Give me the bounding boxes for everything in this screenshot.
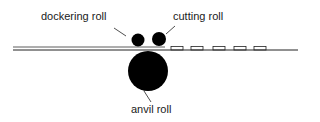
anvil-roll-shape [128,51,168,91]
anvil-roll-label: anvil roll [131,104,171,115]
cut-piece [171,47,183,51]
cut-piece [213,47,225,51]
cutting-roll-shape [152,32,166,46]
dockering-roll-label: dockering roll [41,11,106,22]
cutting-roll-label: cutting roll [173,11,223,22]
cut-pieces [171,47,266,51]
dockering-roll-leader [114,28,126,36]
cut-piece [254,47,266,51]
dockering-roll-shape [132,34,145,47]
cut-piece [234,47,246,51]
anvil-roll-leader [144,91,151,102]
cutting-roll-leader [166,26,175,34]
cut-piece [191,47,203,51]
